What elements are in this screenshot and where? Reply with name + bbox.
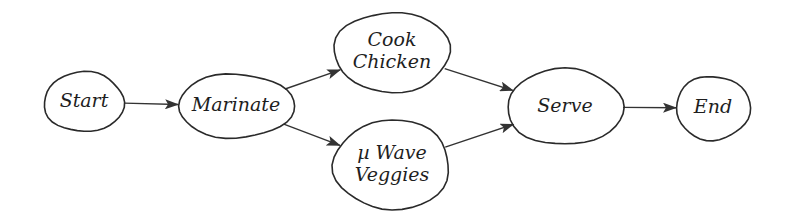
node-label: Marinate bbox=[191, 93, 280, 115]
node-cook-chicken: CookChicken bbox=[334, 13, 450, 93]
edge-marinate-to-uwave-veggies bbox=[284, 124, 340, 145]
node-label: End bbox=[693, 95, 732, 117]
node-end: End bbox=[677, 77, 751, 141]
node-label: Chicken bbox=[353, 50, 432, 72]
edge-cook-chicken-to-serve bbox=[445, 69, 513, 91]
nodes-layer: StartMarinateCookChickenµ WaveVeggiesSer… bbox=[45, 13, 751, 210]
edge-start-to-marinate bbox=[124, 103, 178, 104]
node-label: Veggies bbox=[355, 163, 430, 185]
node-serve: Serve bbox=[508, 68, 624, 144]
node-label: µ Wave bbox=[357, 141, 427, 163]
edge-uwave-veggies-to-serve bbox=[445, 124, 513, 147]
node-label: Start bbox=[60, 89, 109, 111]
node-label: Serve bbox=[537, 94, 592, 116]
flowchart-canvas: StartMarinateCookChickenµ WaveVeggiesSer… bbox=[0, 0, 786, 219]
node-start: Start bbox=[45, 71, 125, 131]
edge-marinate-to-cook-chicken bbox=[285, 70, 340, 89]
node-uwave-veggies: µ WaveVeggies bbox=[332, 120, 448, 210]
node-label: Cook bbox=[368, 28, 417, 50]
node-marinate: Marinate bbox=[179, 74, 295, 138]
